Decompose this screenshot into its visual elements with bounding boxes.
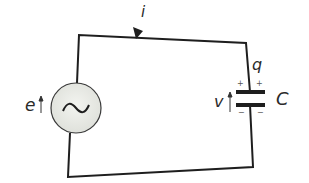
ac-source — [51, 83, 101, 133]
voltage-arrow-icon — [228, 92, 232, 112]
charge-label: q — [252, 57, 262, 73]
current-label: i — [141, 5, 145, 20]
circuit-drawing — [0, 0, 309, 183]
emf-arrow-icon — [39, 96, 43, 113]
minus-sign-left: − — [238, 109, 245, 117]
voltage-label: v — [214, 94, 223, 110]
capacitance-label: C — [276, 90, 289, 108]
capacitor — [236, 90, 265, 107]
minus-sign-right: − — [257, 109, 264, 117]
plus-sign-right: + — [256, 80, 263, 88]
plus-sign-left: + — [237, 80, 244, 88]
emf-label: e — [25, 97, 35, 114]
circuit-diagram: i q e v C + + − − — [0, 0, 309, 183]
